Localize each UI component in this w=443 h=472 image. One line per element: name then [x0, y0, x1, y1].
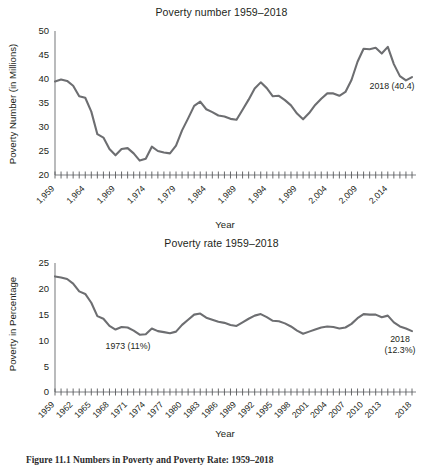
x-tick-label: 2007 [326, 399, 347, 420]
x-axis-title-poverty-number: Year [215, 219, 235, 230]
x-tick-label: 1,984 [185, 183, 207, 205]
x-tick-label: 2004 [308, 399, 329, 420]
x-tick-label: 1977 [145, 399, 166, 420]
x-tick-label: 1965 [72, 399, 93, 420]
x-tick-label: 1,994 [246, 183, 268, 205]
x-tick-label: 1971 [108, 399, 129, 420]
x-tick-label: 1,959 [34, 183, 56, 205]
x-tick-label: 1959 [36, 399, 57, 420]
x-tick-label: 1998 [272, 399, 293, 420]
chart-poverty-rate: Poverty rate 1959–2018 0510152025 195919… [0, 232, 443, 440]
x-tick-label: 1,964 [64, 183, 86, 205]
x-tick-label: 2001 [290, 399, 311, 420]
x-tick-label: 1,974 [125, 183, 147, 205]
x-tick-label: 1,989 [216, 183, 238, 205]
y-tick-label: 15 [38, 309, 49, 320]
x-tick-label: 1995 [254, 399, 275, 420]
y-tick-label: 50 [38, 25, 49, 36]
x-tick-label: 1,979 [155, 183, 177, 205]
chart-poverty-number: Poverty number 1959–2018 20253035404550 … [0, 0, 443, 232]
x-tick-label: 1968 [90, 399, 111, 420]
annotation-2018-rate: 2018 [390, 334, 410, 344]
y-tick-label: 30 [38, 121, 49, 132]
x-tick-label: 1989 [217, 399, 238, 420]
y-tick-label: 25 [38, 145, 49, 156]
x-axis-title-poverty-rate: Year [215, 428, 235, 439]
x-tick-label: 2018 [393, 399, 414, 420]
x-tick-label: 1962 [54, 399, 75, 420]
annotation-2018-number: 2018 (40.4) [370, 81, 415, 91]
x-tick-label: 2,009 [337, 183, 359, 205]
y-axis-title-poverty-rate: Poverty in Percentage [7, 277, 18, 371]
x-tick-label: 1,999 [276, 183, 298, 205]
series-line-poverty-rate [55, 276, 412, 334]
y-tick-label: 10 [38, 335, 49, 346]
x-tick-label: 1983 [181, 399, 202, 420]
plot-area-poverty-number: 20253035404550 1,9591,9641,9691,9741,979… [0, 0, 443, 232]
x-tick-label: 1974 [127, 399, 148, 420]
y-tick-label: 35 [38, 97, 49, 108]
y-tick-label: 45 [38, 49, 49, 60]
y-tick-label: 20 [38, 169, 49, 180]
y-tick-label: 20 [38, 283, 49, 294]
y-tick-label: 0 [44, 386, 49, 397]
x-tick-label: 1980 [163, 399, 184, 420]
plot-area-poverty-rate: 0510152025 19591962196519681971197419771… [0, 232, 443, 440]
x-tick-label: 1992 [235, 399, 256, 420]
y-tick-label: 5 [44, 361, 49, 372]
annotation-1973-rate: 1973 (11%) [106, 341, 151, 351]
y-tick-label: 40 [38, 73, 49, 84]
x-tick-label: 2,004 [306, 183, 328, 205]
x-tick-label: 2010 [344, 399, 365, 420]
figure-poverty-trends: Poverty number 1959–2018 20253035404550 … [0, 0, 443, 472]
x-tick-label: 2013 [363, 399, 384, 420]
annotation-2018-rate: (12.3%) [385, 345, 416, 355]
series-line-poverty-number [55, 47, 412, 161]
y-tick-label: 25 [38, 257, 49, 268]
x-tick-label: 2,014 [367, 183, 389, 205]
y-axis-title-poverty-number: Poverty Number (in Millions) [7, 44, 18, 164]
x-tick-label: 1986 [199, 399, 220, 420]
figure-caption: Figure 11.1 Numbers in Poverty and Pover… [26, 455, 426, 465]
x-tick-label: 1,969 [95, 183, 117, 205]
